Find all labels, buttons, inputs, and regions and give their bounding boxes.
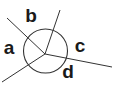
angle-diagram: a b c d <box>0 0 113 86</box>
ray-right <box>45 54 112 67</box>
angle-label-c: c <box>75 36 86 55</box>
angle-label-d: d <box>62 62 74 81</box>
angle-label-a: a <box>4 38 15 57</box>
angle-figure <box>0 0 113 86</box>
ray-lower-left <box>2 54 45 82</box>
ray-upper <box>45 10 60 54</box>
angle-label-b: b <box>25 6 37 25</box>
